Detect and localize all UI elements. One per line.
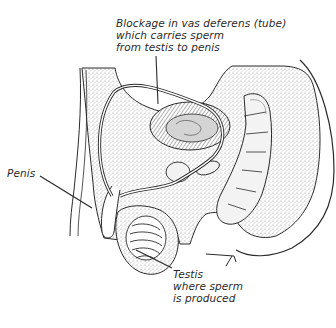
label-line: Testis: [173, 268, 243, 280]
label-line: Blockage in vas deferens (tube): [116, 17, 286, 29]
leader-penis: [40, 176, 92, 208]
thigh-outline: [70, 68, 81, 236]
label-line: where sperm: [173, 280, 243, 292]
label-line: Penis: [7, 167, 35, 179]
label-line: which carries sperm: [116, 29, 286, 41]
buttock-crease: [206, 254, 236, 266]
label-line: is produced: [173, 292, 243, 304]
label-testis: Testis where sperm is produced: [173, 268, 243, 304]
label-vas-deferens-blockage: Blockage in vas deferens (tube) which ca…: [116, 17, 286, 53]
label-line: from testis to penis: [116, 41, 286, 53]
bladder: [150, 102, 230, 150]
testis: [116, 206, 178, 275]
label-penis: Penis: [7, 167, 35, 179]
leader-blockage: [156, 56, 158, 104]
